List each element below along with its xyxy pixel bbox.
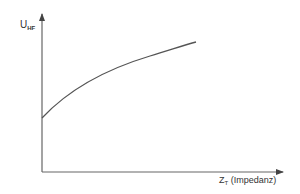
y-axis-subscript: HF: [27, 25, 35, 31]
y-axis-label: UHF: [20, 19, 35, 31]
x-axis-suffix: (Impedanz): [228, 175, 276, 185]
x-axis-label: ZT (Impedanz): [219, 175, 276, 186]
response-curve: [42, 42, 196, 118]
diagram-canvas: [0, 0, 300, 194]
